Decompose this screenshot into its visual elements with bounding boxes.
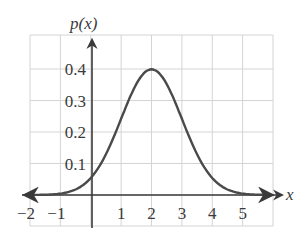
y-tick-label: 0.1 [65,155,86,174]
y-tick-label: 0.4 [65,60,87,79]
x-tick-label: 2 [147,204,156,223]
y-tick-label: 0.3 [65,92,86,111]
x-tick-label: 4 [208,204,217,223]
normal-distribution-chart: −2−1123450.10.20.30.4 p(x) x [0,0,303,234]
x-axis-label: x [285,185,294,204]
x-tick-label: −1 [47,204,65,223]
x-tick-label: 3 [178,204,187,223]
x-tick-label: −2 [17,204,35,223]
y-tick-label: 0.2 [65,123,86,142]
x-tick-label: 1 [117,204,126,223]
y-axis-label: p(x) [69,14,98,33]
x-tick-label: 5 [238,204,247,223]
